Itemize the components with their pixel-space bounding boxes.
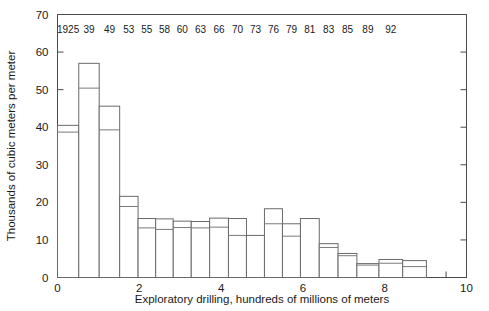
y-tick-label: 70 xyxy=(36,9,49,21)
year-label: 66 xyxy=(213,24,225,35)
x-tick-label: 4 xyxy=(218,282,225,294)
year-label: 39 xyxy=(83,24,95,35)
y-tick-label: 60 xyxy=(36,46,49,58)
year-label: 70 xyxy=(232,24,244,35)
year-label: 92 xyxy=(385,24,397,35)
bar xyxy=(99,106,119,277)
year-label: 73 xyxy=(250,24,262,35)
bar xyxy=(79,63,99,277)
bar-outline xyxy=(173,221,191,277)
x-axis-title: Exploratory drilling, hundreds of millio… xyxy=(135,293,390,305)
bar xyxy=(173,221,191,277)
bar xyxy=(138,219,156,278)
bar xyxy=(379,259,403,277)
year-label: 1925 xyxy=(57,24,80,35)
y-axis-title: Thousands of cubic meters per meter xyxy=(5,51,17,242)
histogram-chart: 010203040506070 0246810 1925394953555860… xyxy=(0,0,489,311)
year-label: 81 xyxy=(304,24,316,35)
bar-outline xyxy=(338,253,357,277)
y-tick-label: 50 xyxy=(36,84,49,96)
bar-outline xyxy=(120,196,138,277)
bar xyxy=(338,253,357,277)
x-tick-label: 0 xyxy=(54,282,60,294)
bar xyxy=(319,244,338,278)
year-label: 83 xyxy=(323,24,335,35)
x-tick-label: 2 xyxy=(136,282,142,294)
bar-outline xyxy=(99,106,119,277)
year-label: 79 xyxy=(286,24,298,35)
bar-outline xyxy=(246,235,264,277)
x-tick-label: 6 xyxy=(300,282,306,294)
y-tick-label: 40 xyxy=(36,121,49,133)
year-annotation-row: 19253949535558606366707376798183858992 xyxy=(57,24,397,35)
bar-outline xyxy=(58,125,79,277)
chart-figure: 010203040506070 0246810 1925394953555860… xyxy=(0,0,489,311)
bar xyxy=(282,224,300,278)
bar xyxy=(120,196,138,277)
year-label: 89 xyxy=(362,24,374,35)
y-tick-label: 0 xyxy=(42,272,48,284)
bars-group xyxy=(58,63,427,277)
bar-outline xyxy=(282,224,300,278)
bar xyxy=(300,219,319,278)
bar xyxy=(58,125,79,277)
bar xyxy=(191,222,209,278)
year-label: 85 xyxy=(342,24,354,35)
bar-outline xyxy=(79,63,99,277)
year-label: 60 xyxy=(177,24,189,35)
y-tick-label: 30 xyxy=(36,159,49,171)
bar-outline xyxy=(379,259,403,277)
y-tick-label: 10 xyxy=(36,234,49,246)
bar-outline xyxy=(138,219,156,278)
bar-outline xyxy=(300,219,319,278)
bar-outline xyxy=(403,261,427,278)
year-label: 55 xyxy=(141,24,153,35)
bar xyxy=(228,219,246,278)
bar-outline xyxy=(357,264,379,278)
bar-outline xyxy=(264,209,282,278)
y-tick-label: 20 xyxy=(36,196,49,208)
year-label: 76 xyxy=(268,24,280,35)
bar xyxy=(246,235,264,277)
bar-outline xyxy=(319,244,338,278)
bar-outline xyxy=(191,222,209,278)
bar xyxy=(357,264,379,278)
bar-outline xyxy=(156,219,174,278)
x-tick-label: 8 xyxy=(381,282,387,294)
bar-outline xyxy=(228,219,246,278)
year-label: 49 xyxy=(104,24,116,35)
bar xyxy=(210,218,229,277)
year-label: 53 xyxy=(123,24,135,35)
year-label: 58 xyxy=(159,24,171,35)
bar xyxy=(403,261,427,278)
bar xyxy=(264,209,282,278)
x-tick-label: 10 xyxy=(460,282,473,294)
bar xyxy=(156,219,174,278)
year-label: 63 xyxy=(195,24,207,35)
